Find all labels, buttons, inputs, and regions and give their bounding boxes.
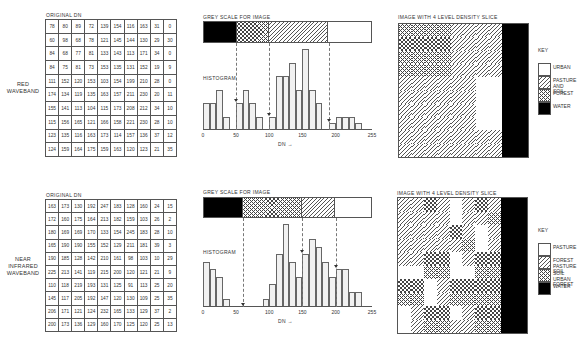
dn-cell: 164 bbox=[85, 213, 98, 226]
map-cell bbox=[489, 130, 502, 143]
map-cell bbox=[438, 51, 451, 64]
histogram: 050100150200255 bbox=[203, 218, 372, 307]
dn-cell: 30 bbox=[163, 33, 176, 47]
map-cell bbox=[399, 64, 412, 77]
grey-scale-segment-cross bbox=[237, 22, 270, 42]
map-cell bbox=[463, 51, 476, 64]
grey-scale-segment-white bbox=[328, 22, 371, 42]
dn-cell: 145 bbox=[111, 33, 124, 47]
map-cell bbox=[501, 306, 514, 320]
dn-cell: 131 bbox=[98, 279, 111, 292]
histogram-bar bbox=[316, 247, 323, 307]
key-label: WATER bbox=[553, 284, 571, 290]
map-cell bbox=[398, 212, 411, 226]
map-cell bbox=[462, 239, 475, 253]
dn-cell: 163 bbox=[46, 200, 59, 213]
map-cell bbox=[412, 77, 425, 90]
x-axis-label: DN → bbox=[278, 318, 293, 324]
dn-cell: 190 bbox=[46, 252, 59, 265]
map-cell bbox=[502, 117, 515, 130]
map-cell bbox=[463, 37, 476, 50]
grey-scale-bar bbox=[203, 21, 372, 43]
map-cell bbox=[514, 252, 527, 266]
map-cell bbox=[424, 239, 437, 253]
map-cell bbox=[501, 320, 514, 334]
threshold-arrow-icon bbox=[241, 303, 245, 306]
dn-cell: 161 bbox=[111, 252, 124, 265]
dn-cell: 35 bbox=[163, 143, 176, 157]
dn-cell: 78 bbox=[85, 33, 98, 47]
map-cell bbox=[437, 225, 450, 239]
original-dn-table: 1631731301922471831281602415172160175164… bbox=[45, 199, 177, 332]
map-cell bbox=[424, 266, 437, 280]
x-tick-label: 200 bbox=[331, 309, 339, 315]
map-cell bbox=[424, 252, 437, 266]
map-cell bbox=[476, 144, 489, 157]
dn-cell: 72 bbox=[85, 20, 98, 34]
dn-cell: 232 bbox=[98, 305, 111, 318]
map-cell bbox=[398, 252, 411, 266]
dn-cell: 193 bbox=[85, 279, 98, 292]
dn-cell: 116 bbox=[124, 20, 137, 34]
dn-cell: 190 bbox=[72, 239, 85, 252]
map-cell bbox=[425, 117, 438, 130]
dn-cell: 156 bbox=[59, 115, 72, 129]
dn-cell: 129 bbox=[111, 239, 124, 252]
map-cell bbox=[438, 37, 451, 50]
dn-cell: 2 bbox=[163, 305, 176, 318]
table-row: 78808972139154116163310 bbox=[46, 20, 177, 34]
histogram: 050100150200255 bbox=[203, 43, 372, 130]
dn-cell: 153 bbox=[98, 61, 111, 75]
histogram-bar bbox=[342, 117, 349, 131]
histogram-bar bbox=[203, 262, 210, 307]
map-cell bbox=[502, 91, 515, 104]
map-cell bbox=[489, 64, 502, 77]
dn-cell: 211 bbox=[124, 239, 137, 252]
map-cell bbox=[399, 130, 412, 143]
map-cell bbox=[475, 266, 488, 280]
map-cell bbox=[489, 77, 502, 90]
dn-cell: 208 bbox=[124, 102, 137, 116]
histogram-bar bbox=[283, 76, 290, 130]
map-cell bbox=[463, 104, 476, 117]
map-cell bbox=[475, 252, 488, 266]
map-cell bbox=[437, 212, 450, 226]
density-slice-map bbox=[397, 197, 528, 334]
map-cell bbox=[488, 239, 501, 253]
threshold-arrow-icon bbox=[300, 250, 304, 253]
dn-cell: 111 bbox=[46, 74, 59, 88]
key-swatch-hatch bbox=[538, 256, 551, 269]
dn-cell: 159 bbox=[98, 143, 111, 157]
map-cell bbox=[438, 91, 451, 104]
dn-cell: 29 bbox=[163, 252, 176, 265]
map-cell bbox=[412, 91, 425, 104]
map-cell bbox=[501, 212, 514, 226]
dn-cell: 160 bbox=[137, 200, 150, 213]
map-cell bbox=[463, 130, 476, 143]
map-cell bbox=[515, 91, 528, 104]
threshold-arrow-icon bbox=[234, 99, 238, 102]
dn-cell: 12 bbox=[163, 129, 176, 143]
map-cell bbox=[438, 24, 451, 37]
map-cell bbox=[424, 320, 437, 334]
map-cell bbox=[488, 293, 501, 307]
dn-cell: 124 bbox=[46, 143, 59, 157]
dn-cell: 121 bbox=[85, 115, 98, 129]
map-cell bbox=[399, 104, 412, 117]
dn-cell: 173 bbox=[111, 102, 124, 116]
map-cell bbox=[463, 144, 476, 157]
map-cell bbox=[515, 117, 528, 130]
map-cell bbox=[425, 24, 438, 37]
map-cell bbox=[437, 293, 450, 307]
map-cell bbox=[501, 239, 514, 253]
x-tick-label: 255 bbox=[368, 132, 376, 138]
map-title: IMAGE WITH 4 LEVEL DENSITY SLICE bbox=[398, 14, 498, 20]
map-cell bbox=[462, 279, 475, 293]
grey-scale-segment-hatch bbox=[302, 198, 335, 217]
dn-cell: 120 bbox=[111, 292, 124, 305]
map-cell bbox=[476, 130, 489, 143]
dn-cell: 152 bbox=[59, 74, 72, 88]
map-cell bbox=[412, 37, 425, 50]
dn-cell: 84 bbox=[46, 61, 59, 75]
map-cell bbox=[424, 212, 437, 226]
